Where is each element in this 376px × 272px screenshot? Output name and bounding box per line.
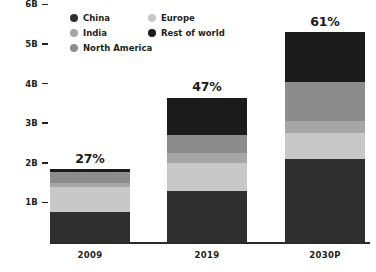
bar-segment-north-america[interactable] <box>285 82 365 122</box>
legend-item-europe[interactable]: Europe <box>148 12 255 24</box>
y-axis-tick-label: 1B <box>25 196 38 208</box>
y-axis-tick-label: 4B <box>25 78 38 90</box>
y-axis-tick: 1B <box>0 196 48 208</box>
bar-segment-china[interactable] <box>167 191 247 242</box>
legend-item-label: Rest of world <box>161 27 225 39</box>
bar-segment-rest-of-world[interactable] <box>167 98 247 136</box>
bar-segment-north-america[interactable] <box>167 135 247 153</box>
y-axis-tick-mark <box>42 162 48 164</box>
legend-swatch-icon <box>70 44 78 52</box>
legend-item-india[interactable]: India <box>70 27 148 39</box>
bar-segment-india[interactable] <box>285 121 365 133</box>
y-axis-tick-label: 2B <box>25 157 38 169</box>
y-axis-tick-label: 5B <box>25 38 38 50</box>
legend-item-label: China <box>83 12 110 24</box>
legend-swatch-icon <box>70 29 78 37</box>
bar-segment-europe[interactable] <box>285 133 365 159</box>
stacked-bar[interactable] <box>50 169 130 242</box>
y-axis-tick: 5B <box>0 38 48 50</box>
bar-percentage-label: 47% <box>167 79 247 94</box>
bar-percentage-label: 61% <box>285 14 365 29</box>
legend-item-label: Europe <box>161 12 195 24</box>
chart-legend: ChinaIndiaNorth AmericaEuropeRest of wor… <box>70 12 255 54</box>
y-axis-tick-label: 3B <box>25 117 38 129</box>
y-axis-tick: 4B <box>0 78 48 90</box>
legend-swatch-icon <box>70 14 78 22</box>
legend-swatch-icon <box>148 29 156 37</box>
bar-segment-europe[interactable] <box>50 187 130 213</box>
x-axis-label: 2019 <box>167 250 247 260</box>
legend-item-china[interactable]: China <box>70 12 148 24</box>
stacked-bar[interactable] <box>167 97 247 242</box>
bar-group[interactable]: 61%2030P <box>285 0 365 243</box>
bar-segment-north-america[interactable] <box>50 172 130 183</box>
y-axis-tick: 6B <box>0 0 48 10</box>
y-axis-tick-mark <box>42 122 48 124</box>
legend-column: EuropeRest of world <box>148 12 255 54</box>
legend-swatch-icon <box>148 14 156 22</box>
bar-segment-europe[interactable] <box>167 163 247 191</box>
y-axis-tick-mark <box>42 4 48 6</box>
bar-segment-china[interactable] <box>285 159 365 242</box>
x-axis-label: 2030P <box>285 250 365 260</box>
legend-item-north-america[interactable]: North America <box>70 42 148 54</box>
y-axis-tick-label: 6B <box>25 0 38 10</box>
bar-segment-china[interactable] <box>50 212 130 242</box>
y-axis-tick: 3B <box>0 117 48 129</box>
stacked-bar-chart: 6B5B4B3B2B1B 27%200947%201961%2030P Chin… <box>0 0 376 272</box>
bar-percentage-label: 27% <box>50 151 130 166</box>
y-axis-tick-mark <box>42 83 48 85</box>
y-axis: 6B5B4B3B2B1B <box>0 0 50 250</box>
legend-item-rest-of-world[interactable]: Rest of world <box>148 27 255 39</box>
bar-segment-india[interactable] <box>167 153 247 163</box>
y-axis-tick-mark <box>42 202 48 204</box>
legend-item-label: India <box>83 27 107 39</box>
legend-item-label: North America <box>83 42 152 54</box>
y-axis-tick: 2B <box>0 157 48 169</box>
legend-column: ChinaIndiaNorth America <box>70 12 148 54</box>
bar-segment-rest-of-world[interactable] <box>285 32 365 82</box>
stacked-bar[interactable] <box>285 32 365 242</box>
x-axis-label: 2009 <box>50 250 130 260</box>
y-axis-tick-mark <box>42 43 48 45</box>
